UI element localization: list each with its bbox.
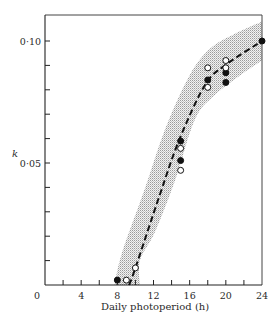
open-data-point — [205, 65, 211, 71]
y-tick-label: 0·05 — [20, 158, 41, 169]
x-tick-label: 16 — [184, 290, 196, 301]
x-axis-label: Daily photoperiod (h) — [101, 301, 209, 312]
filled-data-point — [223, 79, 229, 85]
filled-data-point — [178, 138, 184, 144]
open-data-point — [223, 58, 229, 64]
x-tick-label: 24 — [256, 290, 268, 301]
x-tick-label: 0 — [34, 290, 40, 301]
confidence-band — [115, 21, 262, 285]
x-tick-label: 8 — [114, 290, 120, 301]
open-data-point — [205, 84, 211, 90]
open-data-point — [123, 277, 129, 283]
filled-data-point — [178, 158, 184, 164]
x-axis: 04812162024 — [34, 280, 268, 301]
x-tick-label: 20 — [220, 290, 232, 301]
filled-data-point — [259, 38, 265, 44]
chart: 04812162024 0·050·10 Daily photoperiod (… — [0, 0, 280, 325]
x-tick-label: 12 — [147, 290, 159, 301]
filled-data-point — [114, 277, 120, 283]
open-data-point — [223, 65, 229, 71]
y-axis: 0·050·10 — [20, 15, 50, 285]
open-data-point — [178, 167, 184, 173]
x-tick-label: 4 — [78, 290, 84, 301]
filled-data-point — [205, 77, 211, 83]
y-tick-label: 0·10 — [20, 36, 41, 47]
y-axis-label: k — [12, 148, 18, 159]
open-data-point — [178, 145, 184, 151]
open-data-point — [132, 265, 138, 271]
